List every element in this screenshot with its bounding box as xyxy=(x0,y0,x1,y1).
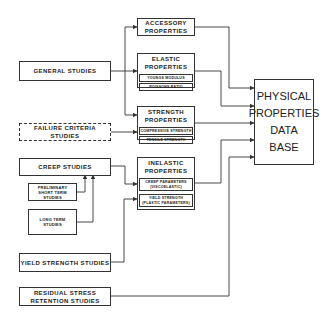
inelastic-properties-box: INELASTIC PROPERTIES CREEP PARAMETERS (V… xyxy=(137,157,195,210)
long-term-studies-box: LONG TERM STUDIES xyxy=(28,209,77,235)
creep-parameters-line1: CREEP PARAMETERS xyxy=(140,180,192,185)
general-studies-box: GENERAL STUDIES xyxy=(19,61,111,81)
elastic-title-line1: ELASTIC xyxy=(145,56,188,64)
compressive-strength-box: COMPRESSIVE STRENGTH xyxy=(139,127,193,135)
accessory-label-line2: PROPERTIES xyxy=(145,27,188,35)
strength-properties-box: STRENGTH PROPERTIES COMPRESSIVE STRENGTH… xyxy=(137,106,195,140)
strength-title-line1: STRENGTH xyxy=(145,109,188,117)
database-label-line3: DATA xyxy=(270,122,298,139)
database-label-line4: BASE xyxy=(269,139,298,156)
failure-criteria-label-line2: STUDIES xyxy=(51,132,80,140)
creep-studies-label: CREEP STUDIES xyxy=(38,163,91,171)
failure-criteria-studies-box: FAILURE CRITERIA STUDIES xyxy=(19,123,111,141)
yield-strength-studies-box: YIELD STRENGTH STUDIES xyxy=(19,253,111,272)
physical-properties-database-box: PHYSICAL PROPERTIES DATA BASE xyxy=(254,79,314,165)
elastic-title-line2: PROPERTIES xyxy=(145,64,188,72)
general-studies-label: GENERAL STUDIES xyxy=(34,67,97,75)
preliminary-label-line3: STUDIES xyxy=(43,195,62,200)
yield-strength-line2: (PLASTIC PARAMETERS) xyxy=(140,201,192,206)
database-label-line2: PROPERTIES xyxy=(249,105,320,122)
creep-parameters-line2: (VISCOELASTIC) xyxy=(140,185,192,190)
tensile-strength-box: TENSILE STRENGTH xyxy=(139,136,193,144)
yield-strength-parameters-box: YIELD STRENGTH (PLASTIC PARAMETERS) xyxy=(139,194,193,207)
residual-stress-retention-studies-box: RESIDUAL STRESS RETENTION STUDIES xyxy=(19,287,111,306)
elastic-properties-title: ELASTIC PROPERTIES xyxy=(145,56,188,71)
inelastic-properties-title: INELASTIC PROPERTIES xyxy=(145,160,188,175)
database-label-line1: PHYSICAL xyxy=(257,88,311,105)
creep-studies-box: CREEP STUDIES xyxy=(19,158,111,176)
yield-strength-studies-label: YIELD STRENGTH STUDIES xyxy=(21,259,110,267)
long-term-label-line2: STUDIES xyxy=(43,222,62,227)
youngs-modulus-box: YOUNGS MODULUS xyxy=(139,74,193,82)
elastic-properties-box: ELASTIC PROPERTIES YOUNGS MODULUS POISSO… xyxy=(137,53,195,88)
inelastic-title-line2: PROPERTIES xyxy=(145,168,188,176)
residual-stress-label-line2: RETENTION STUDIES xyxy=(30,297,99,305)
accessory-properties-box: ACCESSORY PROPERTIES xyxy=(137,18,195,36)
strength-properties-title: STRENGTH PROPERTIES xyxy=(145,109,188,124)
residual-stress-label-line1: RESIDUAL STRESS xyxy=(34,289,96,297)
creep-parameters-box: CREEP PARAMETERS (VISCOELASTIC) xyxy=(139,178,193,191)
preliminary-short-term-studies-box: PRELIMINARY SHORT TERM STUDIES xyxy=(28,183,77,201)
strength-title-line2: PROPERTIES xyxy=(145,117,188,125)
poissons-ratio-box: POISSONS RATIO xyxy=(139,83,193,91)
accessory-label-line1: ACCESSORY xyxy=(145,19,186,27)
failure-criteria-label-line1: FAILURE CRITERIA xyxy=(34,124,96,132)
inelastic-title-line1: INELASTIC xyxy=(145,160,188,168)
